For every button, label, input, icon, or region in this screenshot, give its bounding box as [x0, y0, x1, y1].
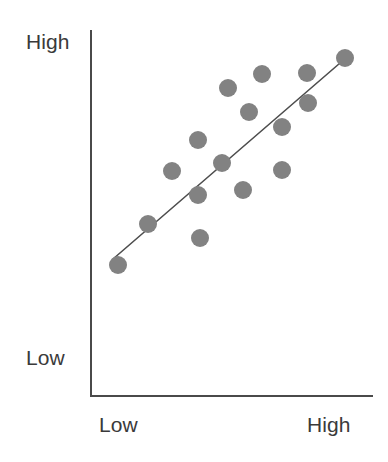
data-point — [299, 94, 317, 112]
data-point — [298, 64, 316, 82]
y-axis-tick-label-low: Low — [26, 347, 65, 368]
data-point — [219, 79, 237, 97]
data-point — [189, 186, 207, 204]
plot-canvas — [0, 0, 388, 462]
data-point — [139, 215, 157, 233]
data-point — [253, 65, 271, 83]
data-point — [189, 131, 207, 149]
data-point — [109, 256, 127, 274]
x-axis-tick-label-high: High — [307, 414, 351, 435]
data-point — [240, 103, 258, 121]
data-point — [273, 161, 291, 179]
data-point — [273, 118, 291, 136]
data-point — [234, 181, 252, 199]
y-axis-tick-label-high: High — [26, 31, 70, 52]
x-axis-tick-label-low: Low — [99, 414, 138, 435]
scatter-plot-figure: High Low Low High — [0, 0, 388, 462]
data-point — [191, 229, 209, 247]
data-point — [163, 162, 181, 180]
data-point — [336, 49, 354, 67]
data-point — [213, 154, 231, 172]
